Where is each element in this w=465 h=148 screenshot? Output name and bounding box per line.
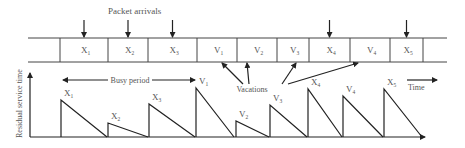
pulse-label: X2 — [111, 111, 121, 122]
busy-period-indicator: Busy period — [63, 76, 195, 85]
queue-cell-label: X5 — [404, 45, 414, 56]
time-indicator: Time — [407, 80, 437, 92]
packet-arrivals-label: Packet arrivals — [108, 6, 162, 16]
pulse-v2 — [236, 121, 269, 137]
pulse-v4 — [343, 96, 383, 137]
time-label: Time — [408, 83, 425, 92]
pulse-label: V3 — [273, 93, 283, 104]
pulse-label: V1 — [199, 76, 209, 87]
y-axis-label: Residual service time — [15, 69, 24, 138]
vacation-arrow-v4 — [288, 63, 358, 84]
plot-axes: Residual service time — [15, 69, 425, 138]
queue-cell-label: V4 — [367, 45, 377, 56]
arrival-arrows — [84, 20, 407, 37]
pulse-label: V4 — [346, 84, 356, 95]
pulse-label: X3 — [152, 92, 162, 103]
pulse-x2 — [108, 123, 148, 137]
queue-cell-label: X2 — [125, 45, 135, 56]
queue-cell-label: V1 — [214, 45, 224, 56]
vacation-arrow-v3 — [282, 63, 296, 84]
pulse-x1 — [61, 100, 107, 137]
queue-cell-label: X1 — [81, 45, 91, 56]
pulse-label: X4 — [311, 77, 321, 88]
queue-cell-label: X4 — [327, 45, 337, 56]
pulse-v3 — [270, 105, 307, 137]
pulse-v1 — [196, 88, 234, 137]
queue-cell-label: V2 — [254, 45, 264, 56]
pulse-label: X1 — [64, 88, 74, 99]
vacation-arrow-v1 — [222, 63, 243, 84]
queue-cell-label: X3 — [170, 45, 180, 56]
queue-cell-label: V3 — [290, 45, 300, 56]
pulse-label: X5 — [387, 77, 397, 88]
pulse-x4 — [308, 89, 342, 137]
vacations-label: Vacations — [236, 85, 267, 94]
pulse-x3 — [149, 104, 195, 137]
queue-band: X1X2X3V1V2V3X4V4X5 — [28, 38, 447, 62]
pulse-label: V2 — [239, 109, 249, 120]
pulse-x5 — [384, 89, 422, 137]
busy-period-label: Busy period — [111, 76, 150, 85]
vacation-arrow-v2 — [247, 63, 249, 84]
vacation-queue-diagram: Packet arrivals X1X2X3V1V2V3X4V4X5 Vacat… — [0, 0, 465, 148]
vacation-pointers: Vacations — [222, 63, 358, 94]
